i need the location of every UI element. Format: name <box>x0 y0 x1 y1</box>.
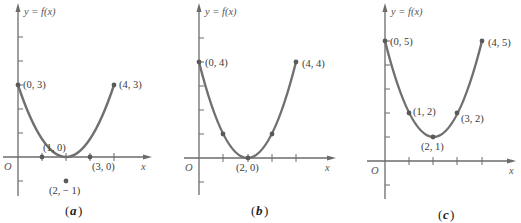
x-axis-arrow-icon <box>143 155 152 160</box>
x-axis-label: x <box>324 162 330 173</box>
origin-label: O <box>4 161 12 172</box>
point-label-2-0: (2, 0) <box>236 162 259 174</box>
y-ticks <box>385 41 390 185</box>
caption-a-open: ( <box>65 203 69 218</box>
point-label-2-neg1: (2, − 1) <box>49 185 81 197</box>
y-axis-arrow-icon <box>16 3 21 12</box>
caption-b: b <box>256 203 263 218</box>
point-3-2 <box>455 111 460 116</box>
origin-label: O <box>371 165 379 176</box>
point-label-3-2: (3, 2) <box>461 113 484 125</box>
panel-b: y = f(x) x O (0, 4) (2, 0) (4, 4) ( b ) <box>184 3 336 218</box>
panel-c: y = f(x) x O (0, 5) (1, 2) (2, 1) (3, 2)… <box>367 3 516 222</box>
point-label-0-4: (0, 4) <box>205 57 228 69</box>
point-0-3 <box>16 83 21 88</box>
caption-a-close: ) <box>78 203 82 218</box>
caption-c-open: ( <box>438 207 442 222</box>
y-axis-label: y = f(x) <box>390 6 423 18</box>
y-axis-label: y = f(x) <box>204 6 237 18</box>
point-label-4-3: (4, 3) <box>119 79 142 91</box>
caption-b-open: ( <box>251 203 255 218</box>
parabola-curve <box>18 85 114 157</box>
point-label-4-5: (4, 5) <box>488 37 511 49</box>
point-1-1 <box>221 132 226 137</box>
point-1-0 <box>40 155 45 160</box>
x-axis-arrow-icon <box>327 156 336 161</box>
y-ticks <box>18 37 23 181</box>
point-2-neg1 <box>64 179 69 184</box>
caption-a: a <box>70 203 77 218</box>
point-2-0 <box>246 156 251 161</box>
point-label-2-1: (2, 1) <box>421 141 444 153</box>
caption-b-close: ) <box>264 203 268 218</box>
y-axis-arrow-icon <box>197 3 202 12</box>
point-label-3-0: (3, 0) <box>92 161 115 173</box>
point-label-0-3: (0, 3) <box>23 79 46 91</box>
point-4-3 <box>112 83 117 88</box>
point-3-1 <box>270 132 275 137</box>
point-label-4-4: (4, 4) <box>302 58 325 70</box>
figure-three-parabolas: y = f(x) x O (0, 3) (1, 0) (2, − 1) (3, … <box>0 0 521 223</box>
x-axis-label: x <box>140 161 146 172</box>
panel-a: y = f(x) x O (0, 3) (1, 0) (2, − 1) (3, … <box>3 3 152 218</box>
point-1-2 <box>407 111 412 116</box>
caption-c: c <box>443 207 449 222</box>
caption-c-close: ) <box>450 207 454 222</box>
parabola-curve <box>199 62 296 158</box>
point-4-4 <box>294 60 299 65</box>
point-0-4 <box>197 60 202 65</box>
point-label-1-0: (1, 0) <box>43 142 66 154</box>
y-axis-arrow-icon <box>383 3 388 12</box>
x-axis-arrow-icon <box>507 159 516 164</box>
point-label-1-2: (1, 2) <box>413 106 436 118</box>
origin-label: O <box>185 162 193 173</box>
x-axis-label: x <box>508 165 514 176</box>
point-label-0-5: (0, 5) <box>390 36 413 48</box>
y-axis-label: y = f(x) <box>23 6 56 18</box>
point-4-5 <box>480 39 485 44</box>
point-3-0 <box>88 155 93 160</box>
point-0-5 <box>383 39 388 44</box>
point-2-1 <box>431 135 436 140</box>
y-ticks <box>199 38 204 182</box>
